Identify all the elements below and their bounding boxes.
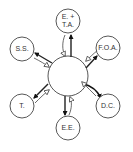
node-label-ee: E.E.: [61, 124, 74, 132]
arrow-pair-ss: [34, 53, 52, 67]
node-label-t: T.: [19, 102, 24, 110]
hub-diagram: E. + T.A. F.O.A. D.C. E.E. T. S.S.: [0, 0, 133, 152]
arrow-pair-eta: [63, 35, 71, 57]
arrow-pair-foa: [86, 50, 98, 68]
arrow-pair-ee: [65, 96, 71, 115]
hub-circle: [48, 56, 88, 96]
arrow-pair-t: [34, 84, 49, 103]
node-label-foa: F.O.A.: [98, 44, 117, 52]
node-label-ss: S.S.: [15, 45, 28, 53]
node-label-eta-line2: T.A.: [62, 21, 75, 29]
arrow-pair-dc: [82, 82, 101, 98]
node-label-dc: D.C.: [101, 102, 115, 110]
node-label-eta: E. + T.A.: [62, 13, 75, 29]
node-label-eta-line1: E. +: [62, 13, 75, 21]
